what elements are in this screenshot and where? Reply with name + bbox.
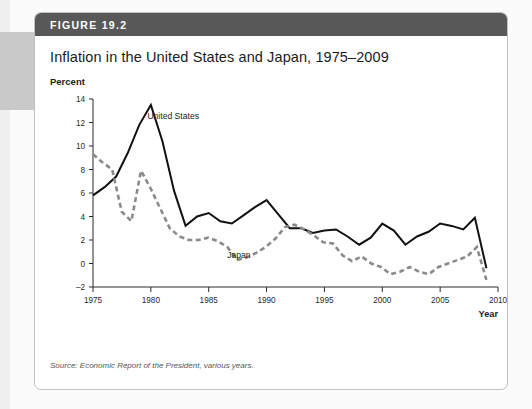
x-tick-label: 2005 [431, 296, 450, 305]
chart-plot-area: –202468101214197519801985199019952000200… [35, 87, 508, 337]
figure-title: Inflation in the United States and Japan… [50, 49, 507, 65]
x-tick-label: 2000 [373, 296, 392, 305]
x-tick-label: 2010 [489, 296, 508, 305]
y-tick-label: 4 [80, 213, 85, 222]
chart-axes [93, 99, 498, 287]
x-tick-label: 1990 [257, 296, 276, 305]
x-axis-title: Year [479, 309, 499, 319]
series-label-united-states: United States [147, 111, 199, 121]
y-tick-label: 8 [80, 166, 85, 175]
series-line-united-states [93, 105, 486, 268]
x-tick-label: 1975 [84, 296, 103, 305]
x-tick-label: 1980 [142, 296, 161, 305]
y-tick-label: 2 [80, 236, 85, 245]
y-tick-label: 10 [76, 142, 86, 151]
x-tick-label: 1995 [315, 296, 334, 305]
y-tick-label: 12 [76, 119, 86, 128]
y-tick-label: 6 [80, 189, 85, 198]
figure-header-bar: FIGURE 19.2 [35, 13, 507, 36]
figure-number-label: FIGURE 19.2 [50, 19, 127, 31]
x-tick-label: 1985 [200, 296, 219, 305]
y-tick-label: 14 [76, 95, 86, 104]
inflation-line-chart: –202468101214197519801985199019952000200… [35, 87, 508, 337]
y-tick-label: 0 [80, 260, 85, 269]
y-axis-title: Percent [50, 76, 507, 87]
y-tick-label: –2 [76, 283, 86, 292]
source-note: Source: Economic Report of the President… [50, 361, 254, 370]
series-line-japan [93, 154, 486, 280]
series-label-japan: Japan [227, 250, 251, 260]
figure-card: FIGURE 19.2 Inflation in the United Stat… [34, 12, 508, 390]
